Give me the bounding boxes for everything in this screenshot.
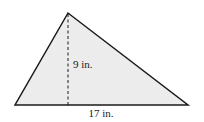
triangle-shape [15, 13, 188, 105]
triangle-diagram: 9 in. 17 in. [0, 0, 204, 122]
height-label: 9 in. [73, 58, 93, 70]
base-label: 17 in. [88, 107, 113, 119]
